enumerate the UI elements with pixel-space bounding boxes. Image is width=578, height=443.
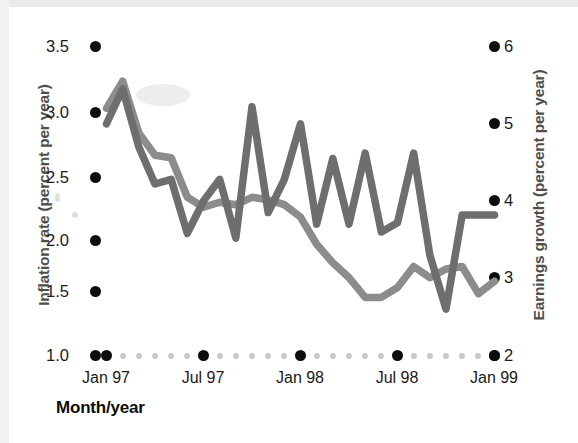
- plot-area: [0, 0, 578, 443]
- chart-figure: Inflation rate (percent per year) Earnin…: [0, 0, 578, 443]
- series-line-earnings-growth: [107, 89, 495, 309]
